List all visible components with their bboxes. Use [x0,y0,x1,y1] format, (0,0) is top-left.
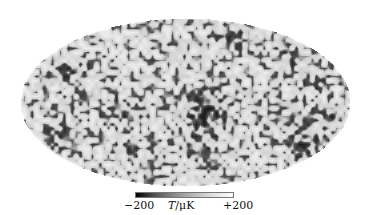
sky-map [0,0,365,190]
colorbar [135,192,234,198]
unit-rest: /μK [175,199,194,212]
colorbar-max-label: +200 [223,199,253,212]
colorbar-unit-label: T/μK [168,199,194,212]
colorbar-min-label: −200 [124,199,154,212]
